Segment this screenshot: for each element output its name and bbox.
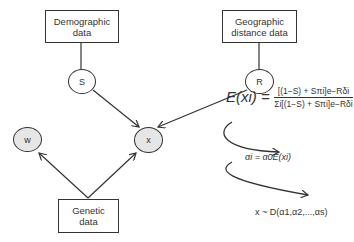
geographic-data-box: Geographicdistance data [222, 10, 297, 43]
node-x-label: x [146, 135, 151, 145]
node-x: x [134, 127, 163, 153]
formula-denominator: Σi[(1−S) + Sπi]e−Rδi [274, 98, 352, 109]
demographic-line2: data [54, 27, 111, 38]
node-s: S [68, 69, 96, 94]
demographic-line1: Demographic [54, 16, 111, 27]
geographic-line2: distance data [231, 27, 288, 38]
alpha-formula: αi = α0E(xi) [245, 152, 291, 162]
edge-genetic-w [39, 153, 88, 198]
node-s-label: S [79, 77, 85, 87]
formula-fraction: [(1−S) + Sπi]e−Rδi Σi[(1−S) + Sπi]e−Rδi [274, 86, 352, 109]
geographic-line1: Geographic [231, 16, 288, 27]
node-w: w [13, 127, 42, 152]
genetic-data-box: Geneticdata [58, 199, 119, 233]
expected-value-formula: E(xi) = [(1−S) + Sπi]e−Rδi Σi[(1−S) + Sπ… [226, 86, 353, 109]
genetic-line2: data [72, 216, 105, 227]
formula-numerator: [(1−S) + Sπi]e−Rδi [274, 86, 352, 98]
formula-lhs: E(xi) = [226, 88, 270, 105]
dirichlet-formula: x ~ D(α1,α2,...,αs) [255, 207, 327, 217]
edge-s-x [93, 90, 139, 127]
edge-genetic-x [88, 153, 136, 198]
demographic-data-box: Demographicdata [45, 10, 119, 43]
genetic-line1: Genetic [72, 205, 105, 216]
curved-arrow-2 [226, 162, 308, 195]
node-w-label: w [24, 135, 31, 145]
node-r-label: R [256, 77, 263, 87]
curved-arrow-1 [224, 122, 279, 152]
